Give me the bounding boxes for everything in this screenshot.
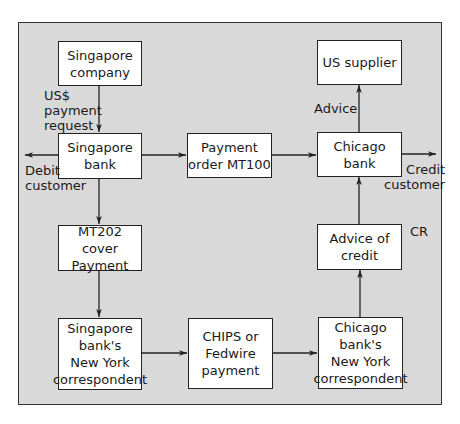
label-debit-customer: Debit customer: [25, 163, 86, 193]
node-advice-of-credit: Advice of credit: [317, 224, 402, 270]
node-payment-order-mt100: Payment order MT100: [187, 133, 272, 178]
label-advice: Advice: [314, 101, 357, 116]
node-singapore-ny-correspondent: Singapore bank's New York correspondent: [58, 318, 142, 390]
node-mt202-cover-payment: MT202 cover Payment: [58, 225, 142, 271]
node-us-supplier: US supplier: [317, 40, 402, 85]
node-singapore-company: Singapore company: [58, 41, 142, 86]
node-chicago-ny-correspondent: Chicago bank's New York correspondent: [318, 317, 403, 389]
label-us-payment-request: US$ payment request: [44, 88, 102, 133]
label-cr: CR: [410, 224, 428, 239]
label-credit-customer: Credit customer: [384, 162, 445, 192]
node-chips-fedwire-payment: CHIPS or Fedwire payment: [188, 318, 273, 389]
